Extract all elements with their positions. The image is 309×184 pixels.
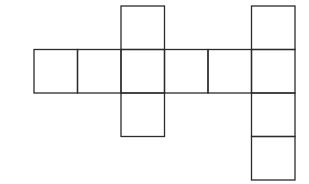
grid-cell — [252, 93, 296, 137]
grid-cell — [165, 50, 209, 94]
grid-cell — [121, 93, 165, 137]
grid-cell — [121, 6, 165, 50]
grid-cell — [34, 50, 78, 94]
grid-cell — [121, 50, 165, 94]
grid-cell — [252, 6, 296, 50]
grid-cell — [252, 50, 296, 94]
grid-cell — [252, 137, 296, 181]
grid-cell — [78, 50, 122, 94]
square-grid-diagram — [0, 0, 309, 184]
grid-cell — [208, 50, 252, 94]
